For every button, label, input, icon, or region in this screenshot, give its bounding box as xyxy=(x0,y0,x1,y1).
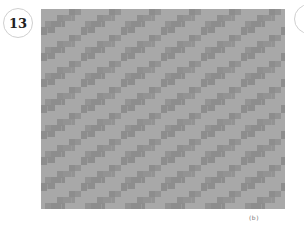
figure-number: 13 xyxy=(9,16,27,31)
figure-caption-marker: (b) xyxy=(249,214,259,221)
figure-number-badge: 13 xyxy=(3,8,33,38)
diagonal-brick-texture xyxy=(41,9,285,209)
texture-image xyxy=(41,9,285,209)
next-figure-badge xyxy=(294,4,304,34)
